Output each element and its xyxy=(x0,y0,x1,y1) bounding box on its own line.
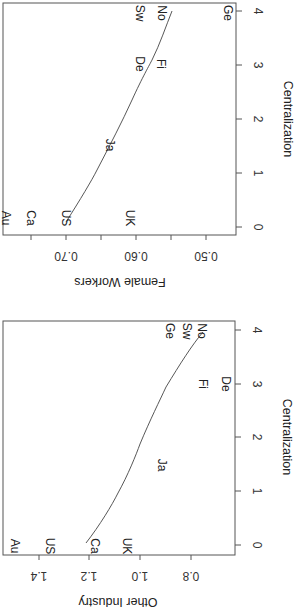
svg-text:0.70: 0.70 xyxy=(54,249,78,263)
y-axis-ticks xyxy=(39,555,191,560)
point-label-ge: Ge xyxy=(163,323,177,339)
y-axis-tick-labels: 0.70 0.60 0.50 xyxy=(54,249,218,263)
panel-female-workers: 0 1 2 3 4 Centralization 0.70 0.60 0.50 … xyxy=(0,3,295,289)
point-label-ca: Ca xyxy=(88,538,102,554)
svg-text:0.8: 0.8 xyxy=(182,569,199,583)
x-axis-tick-labels: 0 1 2 3 4 xyxy=(250,327,264,549)
point-label-us: US xyxy=(59,210,73,227)
point-label-uk: UK xyxy=(120,538,134,555)
svg-text:2: 2 xyxy=(251,116,265,123)
svg-text:1.4: 1.4 xyxy=(30,569,47,583)
svg-text:3: 3 xyxy=(250,381,264,388)
point-label-ge: Ge xyxy=(221,5,235,21)
point-label-sw: Sw xyxy=(180,323,194,340)
x-axis-ticks xyxy=(236,11,242,227)
svg-text:0: 0 xyxy=(251,224,265,231)
point-label-uk: UK xyxy=(123,210,137,227)
svg-text:1.2: 1.2 xyxy=(80,569,97,583)
svg-text:4: 4 xyxy=(250,327,264,334)
point-label-ca: Ca xyxy=(24,210,38,226)
plot-frame xyxy=(3,321,235,555)
panel-other-industry: 0 1 2 3 4 Centralization 1.4 1.2 1.0 0.8… xyxy=(3,321,294,609)
plot-frame xyxy=(3,3,236,235)
svg-text:0.60: 0.60 xyxy=(124,249,148,263)
point-label-no: No xyxy=(195,323,209,339)
point-label-fi: Fi xyxy=(196,379,210,389)
svg-text:2: 2 xyxy=(250,434,264,441)
svg-text:1: 1 xyxy=(251,170,265,177)
x-axis-title: Centralization xyxy=(281,81,295,157)
svg-text:0: 0 xyxy=(250,542,264,549)
point-label-no: No xyxy=(155,5,169,21)
x-axis-tick-labels: 0 1 2 3 4 xyxy=(251,8,265,231)
point-label-de: De xyxy=(219,376,233,392)
y-axis-ticks xyxy=(31,235,206,240)
point-label-ja: Ja xyxy=(155,459,169,472)
point-label-au: Au xyxy=(0,211,13,226)
y-axis-title: Female Workers xyxy=(74,275,165,289)
point-labels: Au US Ca UK Ja Fi De Ge Sw No xyxy=(8,323,233,555)
svg-text:4: 4 xyxy=(251,8,265,15)
svg-text:0.50: 0.50 xyxy=(194,249,218,263)
y-axis-tick-labels: 1.4 1.2 1.0 0.8 xyxy=(30,569,199,583)
x-axis-ticks xyxy=(235,330,241,545)
y-axis-title: Other Industry xyxy=(78,595,158,609)
point-label-us: US xyxy=(43,538,57,555)
svg-text:1.0: 1.0 xyxy=(131,569,148,583)
point-label-au: Au xyxy=(8,539,22,554)
figure: 0 1 2 3 4 Centralization 0.70 0.60 0.50 … xyxy=(0,0,296,609)
fit-curve xyxy=(86,332,203,543)
svg-text:3: 3 xyxy=(251,62,265,69)
point-label-de: De xyxy=(133,56,147,72)
svg-text:1: 1 xyxy=(250,488,264,495)
point-labels: Au Ca US UK Ja De Fi Sw No Ge xyxy=(0,5,235,227)
x-axis-title: Centralization xyxy=(280,399,294,475)
point-label-ja: Ja xyxy=(103,139,117,152)
point-label-sw: Sw xyxy=(133,5,147,22)
fit-curve xyxy=(66,11,172,222)
point-label-fi: Fi xyxy=(154,59,168,69)
